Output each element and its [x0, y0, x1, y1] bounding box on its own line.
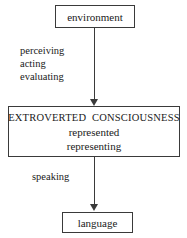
flowchart-diagram: environment perceiving acting evaluating…	[0, 0, 187, 238]
edge-label-acting: acting	[20, 57, 64, 70]
node-consciousness-title: EXTROVERTED CONSCIOUSNESS	[8, 111, 180, 125]
node-consciousness-line-represented: represented	[69, 125, 120, 139]
node-consciousness-line-representing: representing	[67, 139, 121, 153]
node-language-label: language	[78, 216, 118, 230]
edge-label-group-perceiving: perceiving acting evaluating	[20, 44, 64, 83]
arrowhead-down-icon	[90, 204, 98, 211]
edge-label-evaluating: evaluating	[20, 70, 64, 83]
edge-line-vertical	[94, 157, 95, 205]
node-language[interactable]: language	[62, 212, 133, 233]
edge-line-vertical	[94, 28, 95, 100]
node-extroverted-consciousness[interactable]: EXTROVERTED CONSCIOUSNESS represented re…	[8, 106, 180, 157]
arrowhead-down-icon	[90, 99, 98, 106]
node-environment[interactable]: environment	[55, 5, 135, 28]
edge-label-speaking: speaking	[32, 170, 69, 183]
node-environment-label: environment	[67, 10, 123, 24]
edge-label-perceiving: perceiving	[20, 44, 64, 57]
